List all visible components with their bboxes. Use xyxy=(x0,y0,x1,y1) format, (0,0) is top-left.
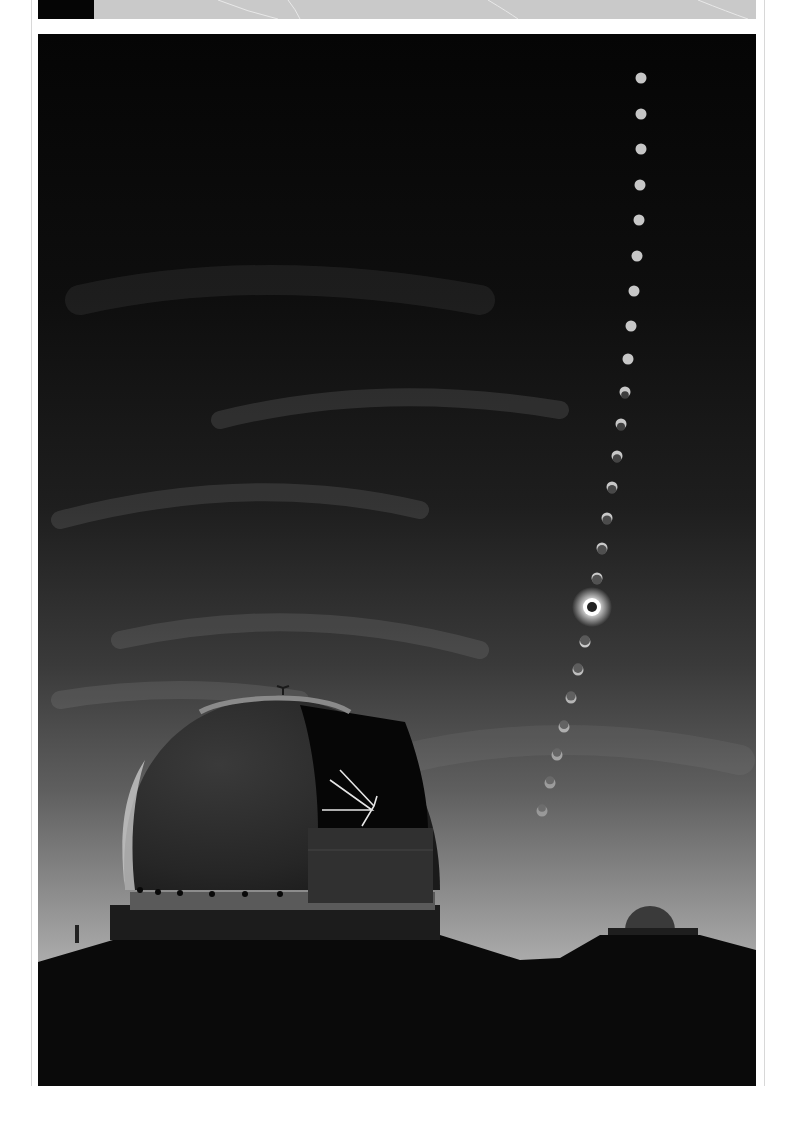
sun-phase xyxy=(635,180,646,191)
mountain-ridge xyxy=(38,935,756,1086)
sun-phase xyxy=(632,251,643,262)
sun-phase xyxy=(623,354,634,365)
sun-phase xyxy=(629,286,640,297)
previous-image-dark-block xyxy=(38,0,94,19)
page-margin-line-right xyxy=(764,0,765,1086)
sun-phase xyxy=(636,73,647,84)
page-margin-line-left xyxy=(31,0,32,1086)
sun-phase xyxy=(626,321,637,332)
railing-post xyxy=(75,925,79,943)
sun-phase xyxy=(634,215,645,226)
eclipse-scene xyxy=(38,34,756,1086)
total-eclipse-corona xyxy=(572,587,612,627)
sun-phase xyxy=(636,144,647,155)
previous-image-lines xyxy=(38,0,756,19)
sun-phase xyxy=(636,109,647,120)
previous-image-strip xyxy=(38,0,756,19)
eclipse-photograph xyxy=(38,34,756,1086)
